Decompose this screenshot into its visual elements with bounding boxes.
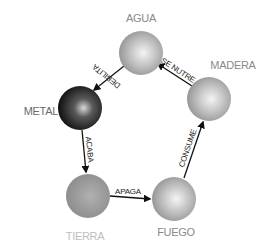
edge-label-consume: CONSUME (177, 128, 198, 168)
five-elements-diagram: DEBILITA SE NUTRE ACABA APAGA CONSUME AG… (0, 0, 272, 251)
edge-label-debilita: DEBILITA (90, 62, 122, 91)
node-metal: METAL (24, 86, 102, 130)
node-agua: AGUA (119, 12, 163, 75)
agua-sphere (119, 31, 163, 75)
edge-label-apaga: APAGA (115, 187, 142, 196)
metal-sphere (58, 86, 102, 130)
edge-agua-metal: DEBILITA (90, 62, 124, 91)
edge-madera-agua: SE NUTRE (158, 56, 197, 86)
edge-label-se-nutre: SE NUTRE (159, 56, 196, 85)
node-madera: MADERA (187, 59, 257, 121)
node-label-tierra: TIERRA (66, 230, 106, 242)
madera-sphere (187, 77, 231, 121)
node-tierra: TIERRA (66, 174, 110, 242)
node-label-fuego: FUEGO (157, 226, 195, 238)
edge-tierra-fuego: APAGA (110, 187, 150, 199)
edge-fuego-madera: CONSUME (177, 122, 203, 178)
node-label-metal: METAL (24, 105, 59, 117)
fuego-sphere (152, 177, 196, 221)
node-label-agua: AGUA (126, 12, 157, 24)
node-label-madera: MADERA (210, 59, 256, 71)
edge-metal-tierra: ACABA (82, 130, 95, 172)
tierra-sphere (66, 174, 110, 218)
node-fuego: FUEGO (152, 177, 196, 238)
